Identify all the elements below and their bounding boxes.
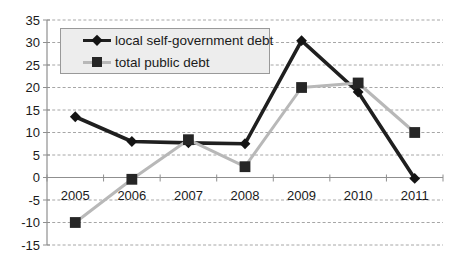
x-axis-label: 2011 [401,188,429,203]
x-axis-label: 2008 [231,188,260,203]
data-point-diamond [126,136,137,147]
data-point-square [70,217,81,228]
x-axis-label: 2010 [344,188,373,203]
legend: local self-government debt total public … [60,28,270,74]
data-point-square [240,161,251,172]
x-axis-label: 2005 [61,188,90,203]
legend-item-local-self-government-debt: local self-government debt [83,33,269,48]
legend-square-line-icon [83,56,111,69]
y-axis-label: 0 [33,170,40,185]
y-axis-label: 10 [26,125,40,140]
y-axis-label: -5 [28,193,40,208]
data-point-diamond [70,111,81,122]
data-point-square [409,127,420,138]
x-axis-label: 2007 [174,188,203,203]
line-chart: -15-10-505101520253035200520062007200820… [0,0,463,268]
y-axis-label: 20 [26,80,40,95]
legend-label-total-public-debt: total public debt [115,55,210,70]
y-axis-label: -15 [21,238,40,253]
y-axis-label: -10 [21,215,40,230]
y-axis-label: 25 [26,58,40,73]
legend-item-total-public-debt: total public debt [83,55,269,70]
y-axis-label: 35 [26,13,40,28]
y-axis-label: 30 [26,35,40,50]
legend-label-local-self-government-debt: local self-government debt [115,33,273,48]
legend-diamond-line-icon [83,34,111,47]
data-point-square [183,134,194,145]
x-axis-label: 2006 [117,188,146,203]
data-point-square [353,78,364,89]
y-axis-label: 5 [33,148,40,163]
y-axis-label: 15 [26,103,40,118]
data-point-square [126,174,137,185]
data-point-square [296,82,307,93]
x-axis-label: 2009 [287,188,316,203]
